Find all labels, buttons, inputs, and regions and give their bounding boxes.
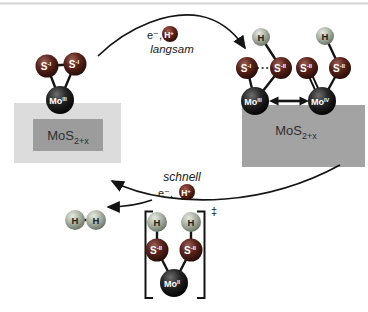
hydrogen-atom-label: H [258, 32, 265, 43]
resonance-arrowhead-left [269, 97, 279, 106]
hydrogen-atom-label: H [72, 215, 79, 226]
h2-product: H H [65, 210, 106, 230]
electron-proton-label: e⁻, [158, 187, 173, 199]
reaction-cycle-diagram: MoS2+x S-I S-I MoIII e⁻, H+ langsam MoS2… [0, 0, 368, 312]
initial-complex: MoS2+x S-I S-I MoIII [14, 53, 121, 164]
h2-release-arrow [108, 200, 152, 207]
fast-step: schnell e⁻, H+ [108, 165, 340, 207]
transition-state: ‡ H H S-II S-II MoII [146, 205, 218, 298]
hydrogen-atom-label: H [322, 31, 329, 42]
diagram-canvas: MoS2+x S-I S-I MoIII e⁻, H+ langsam MoS2… [0, 0, 368, 312]
slow-step: e⁻, H+ langsam [98, 15, 245, 56]
hydrogen-atom-label: H [93, 215, 100, 226]
resonance-arrow [269, 97, 309, 106]
intermediate-complexes: MoS2+x H S-I S-II MoIII [236, 27, 365, 167]
hydrogen-atom-label: H [188, 217, 195, 228]
return-arrow [112, 165, 340, 200]
rate-label-fast: schnell [163, 170, 201, 184]
hydrogen-atom-label: H [154, 217, 161, 228]
resonance-arrowhead-right [300, 97, 310, 106]
double-dagger-symbol: ‡ [211, 205, 217, 217]
rate-label-slow: langsam [150, 43, 194, 55]
electron-proton-label: e⁻, [147, 29, 162, 41]
